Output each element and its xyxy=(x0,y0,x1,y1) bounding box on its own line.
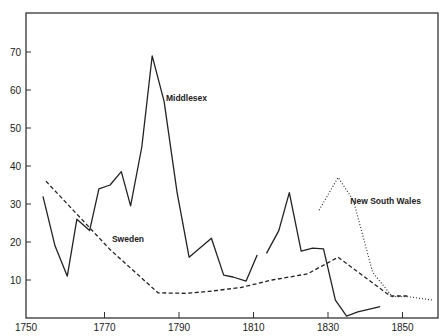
x-tick-label: 1790 xyxy=(168,322,191,333)
series-label: Middlesex xyxy=(166,93,207,103)
series-label: Sweden xyxy=(112,234,144,244)
x-tick-label: 1850 xyxy=(391,322,414,333)
x-axis: 175017701790181018301850 xyxy=(15,312,414,333)
y-tick-label: 60 xyxy=(10,85,22,96)
y-tick-label: 50 xyxy=(10,123,22,134)
y-tick-label: 70 xyxy=(10,47,22,58)
y-tick-label: 10 xyxy=(10,275,22,286)
line-chart: 10203040506070 175017701790181018301850 … xyxy=(0,0,447,336)
y-tick-label: 30 xyxy=(10,199,22,210)
y-axis: 10203040506070 xyxy=(10,47,31,286)
series-line-middlesex xyxy=(43,56,257,281)
series-label: New South Wales xyxy=(350,196,421,206)
series-labels: MiddlesexSwedenNew South Wales xyxy=(112,93,421,244)
series-lines xyxy=(43,56,432,316)
plot-frame xyxy=(26,13,438,318)
y-tick-label: 20 xyxy=(10,237,22,248)
y-tick-label: 40 xyxy=(10,161,22,172)
series-line-middlesex xyxy=(267,193,381,317)
x-tick-label: 1750 xyxy=(15,322,38,333)
x-tick-label: 1810 xyxy=(242,322,265,333)
x-tick-label: 1830 xyxy=(317,322,340,333)
x-tick-label: 1770 xyxy=(93,322,116,333)
